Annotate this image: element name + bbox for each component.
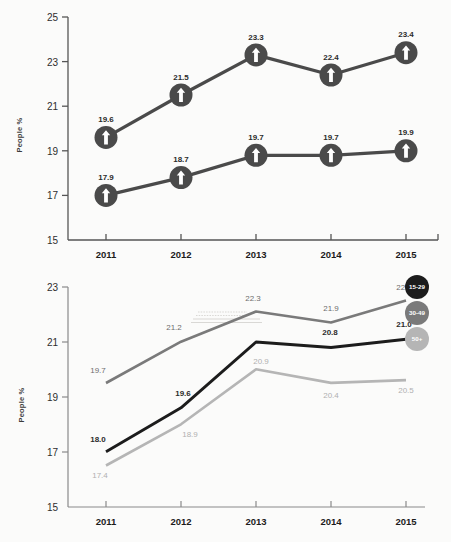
data-point-marker[interactable] [245,144,268,167]
data-label: 21.9 [323,304,339,313]
legend-label: 15-29 [409,283,425,290]
ytick-label-17: 17 [47,447,59,458]
axes-bottom [62,287,425,507]
ytick-label-19: 19 [47,146,59,157]
ytick-label-15: 15 [47,502,59,513]
legend-item-50plus[interactable]: 50+ [405,327,429,351]
ytick-label-25: 25 [47,12,59,23]
series-line-50plus [106,369,406,465]
legend-label: 30-49 [409,309,425,316]
legend-item-30-49[interactable]: 30-49 [405,301,429,325]
legend-label: 50+ [412,335,423,342]
legend: 15-29 30-49 50+ [405,275,429,351]
series-markers-upper: 19.6 21.5 23.3 22.4 23.4 [95,30,418,149]
data-point-marker[interactable] [395,139,418,162]
data-label: 23.4 [398,30,414,39]
chart-panel-bottom: People % 23 21 19 17 15 2011 2012 2013 2… [0,265,451,542]
data-label: 19.6 [98,115,114,124]
xtick-label-2015: 2015 [395,516,417,527]
data-label: 18.0 [90,435,106,444]
ytick-label-21: 21 [47,337,59,348]
data-label: 19.9 [398,128,414,137]
data-label: 23.3 [248,33,264,42]
ytick-label-17: 17 [47,190,59,201]
xtick-label-2013: 2013 [245,249,266,260]
ytick-label-23: 23 [47,282,59,293]
series-markers-lower: 17.9 18.7 19.7 19.7 19.9 [95,128,418,207]
xtick-label-2011: 2011 [96,516,117,527]
data-point-marker[interactable] [395,41,418,64]
legend-item-15-29[interactable]: 15-29 [405,275,429,299]
data-label: 17.9 [98,173,114,182]
data-label: 20.5 [398,386,414,395]
data-label: 20.9 [253,357,269,366]
data-label: 18.9 [182,430,198,439]
data-label: 19.7 [90,366,106,375]
xtick-label-2011: 2011 [96,249,117,260]
data-label: 17.4 [92,471,108,480]
ytick-label-15: 15 [47,235,59,246]
y-axis-title-top: People % [15,117,24,152]
data-label: 18.7 [173,155,189,164]
data-label: 22.3 [245,294,261,303]
chart-panel-top: People % 25 23 21 19 17 15 2011 2012 201… [0,0,451,271]
data-labels-30-49: 19.7 21.2 22.3 21.9 22.7 [90,283,412,375]
data-label: 20.4 [323,391,339,400]
data-point-marker[interactable] [95,126,118,149]
data-point-marker[interactable] [320,144,343,167]
xtick-label-2013: 2013 [245,516,266,527]
ytick-label-19: 19 [47,392,59,403]
line-chart-bottom: People % 23 21 19 17 15 2011 2012 2013 2… [0,265,451,542]
data-point-marker[interactable] [320,64,343,87]
data-point-marker[interactable] [170,84,193,107]
data-point-marker[interactable] [170,166,193,189]
data-labels-50plus: 17.4 18.9 20.9 20.4 20.5 [92,357,414,480]
xtick-label-2014: 2014 [320,516,342,527]
line-chart-top: People % 25 23 21 19 17 15 2011 2012 201… [0,0,451,271]
data-label: 19.7 [248,133,264,142]
data-label: 21.2 [166,323,182,332]
data-label: 19.6 [175,389,191,398]
xtick-label-2012: 2012 [170,249,191,260]
y-axis-title-bottom: People % [17,387,26,422]
ytick-label-23: 23 [47,57,59,68]
data-label: 21.5 [173,73,189,82]
data-label: 19.7 [323,133,339,142]
xtick-label-2014: 2014 [320,249,342,260]
ytick-label-21: 21 [47,101,59,112]
data-label: 22.4 [323,53,339,62]
data-point-marker[interactable] [245,43,268,66]
data-label: 20.8 [322,328,338,337]
xtick-label-2015: 2015 [395,249,417,260]
xtick-label-2012: 2012 [170,516,191,527]
data-point-marker[interactable] [95,184,118,207]
